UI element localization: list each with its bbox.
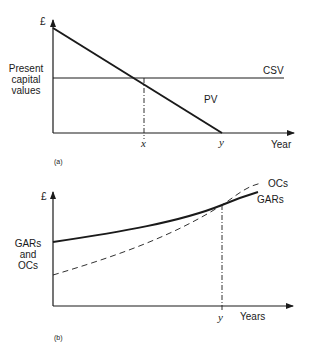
y-title-line-1: Present (4, 63, 48, 74)
diagram-canvas (0, 0, 309, 349)
ocs-label: OCs (268, 178, 288, 189)
panel-b-x-axis-title: Years (240, 311, 265, 322)
ocs-curve (53, 183, 262, 275)
pv-line (53, 28, 222, 133)
panel-a (53, 20, 294, 139)
panel-b-y-axis-title: GARs and OCs (10, 238, 46, 271)
y-title-line-2: capital (4, 74, 48, 85)
panel-a-id-label: (a) (54, 156, 63, 167)
panel-b-currency-symbol: £ (41, 191, 47, 202)
y-title-line-3: values (4, 85, 48, 96)
panel-a-y-axis-title: Present capital values (4, 63, 48, 96)
panel-b-id-label: (b) (54, 332, 63, 343)
y-title-line-2: and (10, 249, 46, 260)
y-marker-label-b: y (218, 312, 223, 323)
pv-label: PV (204, 94, 217, 105)
panel-a-currency-symbol: £ (40, 16, 46, 27)
gars-curve (53, 192, 258, 242)
x-marker-label: x (141, 138, 146, 149)
csv-label: CSV (263, 65, 284, 76)
gars-label: GARs (257, 194, 284, 205)
panel-a-x-axis-title: Year (271, 139, 291, 150)
y-title-line-3: OCs (10, 260, 46, 271)
y-marker-label-a: y (219, 137, 224, 148)
y-title-line-1: GARs (10, 238, 46, 249)
